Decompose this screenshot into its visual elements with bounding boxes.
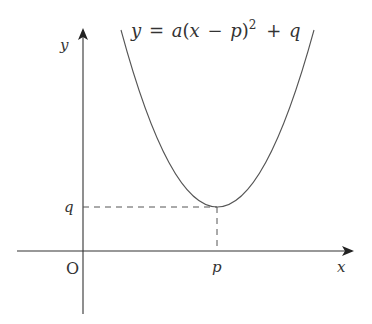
y-axis-label: y — [59, 36, 69, 54]
x-axis-label: x — [337, 258, 346, 276]
origin-label: O — [66, 259, 79, 278]
p-label: p — [212, 258, 222, 276]
equation-label: y = a(x − p)2 + q — [130, 12, 301, 41]
quadratic-graph: y x O q p y = a(x − p)2 + q — [0, 0, 372, 324]
q-label: q — [64, 198, 74, 216]
parabola-curve — [121, 30, 314, 207]
